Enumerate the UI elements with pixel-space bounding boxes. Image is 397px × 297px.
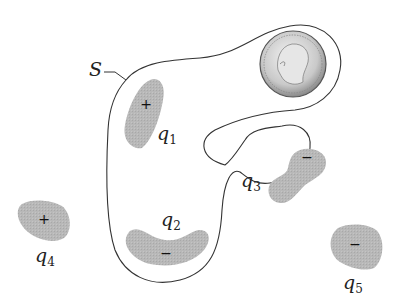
charge-q2-sign: − bbox=[160, 246, 172, 260]
charge-q5-label: q5 bbox=[343, 273, 363, 295]
charge-q2-label: q2 bbox=[161, 210, 181, 232]
charge-q1-label: q1 bbox=[157, 124, 177, 146]
charge-q3-label: q3 bbox=[241, 171, 261, 193]
charge-q4-label: q4 bbox=[35, 246, 55, 268]
charge-q4-sign: + bbox=[38, 212, 50, 226]
charge-q3-blob bbox=[268, 149, 326, 203]
gauss-surface-diagram: S + − − + − q1 q2 q3 q4 q5 bbox=[0, 0, 397, 297]
charge-q1-sign: + bbox=[140, 97, 152, 111]
diagram-canvas bbox=[0, 0, 397, 297]
surface-label: S bbox=[89, 60, 102, 79]
charge-q3-sign: − bbox=[301, 150, 313, 164]
charge-q5-sign: − bbox=[349, 237, 361, 251]
quarter-coin-icon bbox=[260, 31, 326, 97]
surface-label-leader bbox=[104, 72, 126, 80]
